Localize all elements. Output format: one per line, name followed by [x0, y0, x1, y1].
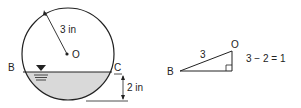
- hypotenuse-label: 3: [200, 49, 206, 60]
- center-label: O: [72, 49, 80, 60]
- point-b-label: B: [8, 62, 15, 73]
- right-triangle: [180, 51, 232, 71]
- depth-label: 2 in: [127, 82, 143, 93]
- point-c-label: C: [114, 62, 121, 73]
- triangle-b-label: B: [167, 66, 174, 77]
- center-point: [65, 52, 68, 55]
- triangle-o-label: O: [231, 39, 239, 50]
- radius-label: 3 in: [60, 24, 76, 35]
- equation-label: 3 − 2 = 1: [246, 53, 286, 64]
- pipe-flow-diagram: 3 in O B C 2 in 3 O B 3 − 2 = 1: [0, 0, 301, 108]
